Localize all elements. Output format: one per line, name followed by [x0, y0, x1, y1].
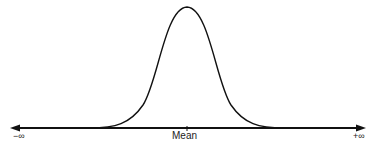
normal-curve: [90, 7, 284, 128]
mean-label: Mean: [172, 130, 197, 141]
bell-curve-diagram: [0, 0, 377, 149]
positive-infinity-label: +∞: [353, 131, 365, 141]
negative-infinity-label: −∞: [13, 131, 25, 141]
